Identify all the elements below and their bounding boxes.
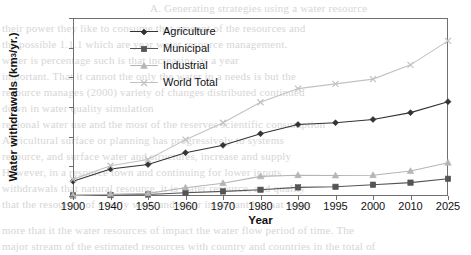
square-marker-icon: [130, 42, 158, 54]
legend-label: Industrial: [163, 59, 208, 71]
legend-item-municipal[interactable]: Municipal: [130, 41, 218, 55]
chart-legend: AgricultureMunicipalIndustrialWorld Tota…: [130, 24, 218, 89]
x-axis-tick-label: 1900: [61, 200, 85, 212]
cross-marker-icon: [130, 76, 158, 88]
x-axis-tick-label: 1940: [98, 200, 122, 212]
legend-label: World Total: [163, 76, 218, 88]
y-axis-tick: [69, 18, 73, 19]
series-municipal: [70, 176, 450, 198]
x-axis-tick-label: 1970: [211, 200, 235, 212]
water-withdrawals-line-chart: Water withdrawals (km3/yr.) 010002000300…: [0, 0, 471, 255]
x-axis-tick-label: 1960: [173, 200, 197, 212]
y-axis-tick: [69, 107, 73, 108]
legend-item-industrial[interactable]: Industrial: [130, 58, 218, 72]
diamond-marker-icon: [130, 25, 158, 37]
legend-label: Municipal: [163, 42, 209, 54]
y-axis-tick: [69, 77, 73, 78]
x-axis-tick-label: 1990: [286, 200, 310, 212]
x-axis-tick-label: 1995: [323, 200, 347, 212]
y-axis-title-tail: /yr.): [7, 32, 19, 52]
x-axis-tick-label: 1950: [136, 200, 160, 212]
legend-item-world-total[interactable]: World Total: [130, 75, 218, 89]
x-axis-tick-label: 2000: [361, 200, 385, 212]
x-axis-tick-label: 2025: [436, 200, 460, 212]
y-axis-title-superscript: 3: [9, 53, 18, 57]
y-axis-title: Water withdrawals (km3/yr.): [4, 18, 22, 196]
legend-label: Agriculture: [163, 25, 216, 37]
y-axis-tick: [69, 48, 73, 49]
legend-item-agriculture[interactable]: Agriculture: [130, 24, 218, 38]
series-world-total: [70, 38, 451, 183]
x-axis-title: Year: [73, 214, 448, 226]
y-axis-tick: [69, 166, 73, 167]
y-axis-tick: [69, 137, 73, 138]
triangle-marker-icon: [130, 59, 158, 71]
x-axis-tick-label: 2010: [398, 200, 422, 212]
y-axis-title-main: Water withdrawals (km: [7, 57, 19, 181]
x-axis-tick-label: 1980: [248, 200, 272, 212]
series-agriculture: [70, 99, 451, 185]
